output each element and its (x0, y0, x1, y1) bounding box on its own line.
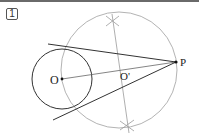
point-o (61, 78, 64, 81)
tangent-line-lower (53, 62, 176, 120)
tangent-line-upper (48, 44, 176, 62)
label-p: P (180, 56, 186, 68)
geometry-diagram: O O' P (0, 0, 199, 139)
arc-mark-bottom-1 (120, 121, 134, 131)
point-p (174, 60, 177, 63)
label-o-prime: O' (120, 70, 130, 82)
label-o: O (50, 73, 59, 87)
